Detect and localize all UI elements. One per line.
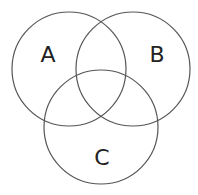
set-b-label: B: [149, 42, 164, 67]
set-b-circle: [76, 12, 190, 126]
venn-diagram: A B C: [0, 0, 198, 195]
set-a-circle: [12, 12, 126, 126]
set-c-label: C: [94, 145, 109, 170]
set-a-label: A: [40, 42, 55, 67]
